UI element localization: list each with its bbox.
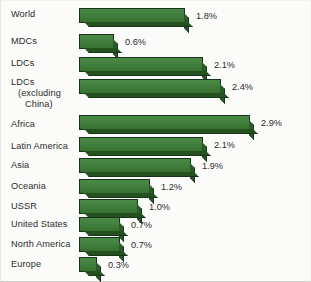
bar-container <box>79 257 97 272</box>
bar-container <box>79 8 185 23</box>
bar-container <box>79 179 150 194</box>
category-label: United States <box>11 219 67 230</box>
bar-container <box>79 79 221 94</box>
bar-container <box>79 34 114 49</box>
value-label: 1.0% <box>149 202 170 213</box>
category-label: North America <box>11 239 71 250</box>
bar <box>79 158 191 173</box>
category-label: LDCs <box>11 58 34 69</box>
bar-container <box>79 237 120 252</box>
bar-face <box>80 180 149 193</box>
bar-bottom-3d <box>84 93 229 98</box>
bar-bottom-3d <box>84 193 158 198</box>
bar-face <box>80 238 119 251</box>
value-label: 1.2% <box>161 182 182 193</box>
value-label: 1.9% <box>202 161 223 172</box>
value-label: 0.6% <box>125 37 146 48</box>
bar <box>79 34 114 49</box>
category-label-line: (excluding <box>11 88 61 99</box>
bar-face <box>80 80 220 93</box>
bar-container <box>79 57 203 72</box>
category-label: MDCs <box>11 36 37 47</box>
bar-face <box>80 218 119 231</box>
bar <box>79 217 120 232</box>
category-label: World <box>11 9 35 20</box>
bar-container <box>79 137 203 152</box>
bar-bottom-3d <box>84 48 122 53</box>
category-label-line: LDCs <box>11 77 61 88</box>
value-label: 2.4% <box>232 82 253 93</box>
bar <box>79 137 203 152</box>
category-label: LDCs(excludingChina) <box>11 77 61 110</box>
bar <box>79 257 97 272</box>
category-label: Oceania <box>11 181 46 192</box>
bar-container <box>79 158 191 173</box>
bar-face <box>80 58 202 71</box>
category-label: Europe <box>11 259 41 270</box>
bar-face <box>80 200 137 213</box>
bar-bottom-3d <box>84 172 199 177</box>
bar <box>79 199 138 214</box>
category-label: Asia <box>11 160 29 171</box>
bar-face <box>80 116 249 129</box>
category-label: USSR <box>11 201 37 212</box>
value-label: 1.8% <box>196 11 217 22</box>
bar-bottom-3d <box>84 22 193 27</box>
value-label: 0.7% <box>131 240 152 251</box>
bar-container <box>79 115 250 130</box>
bar <box>79 179 150 194</box>
category-label: Latin America <box>11 141 68 152</box>
bar-bottom-3d <box>84 271 105 276</box>
value-label: 0.7% <box>131 220 152 231</box>
value-label: 2.9% <box>261 118 282 129</box>
bar-face <box>80 258 96 271</box>
bar <box>79 57 203 72</box>
bar-container <box>79 199 138 214</box>
bar-bottom-3d <box>84 71 211 76</box>
bar-bottom-3d <box>84 231 128 236</box>
bar <box>79 8 185 23</box>
bar-face <box>80 35 113 48</box>
bar <box>79 79 221 94</box>
bar-face <box>80 9 184 22</box>
bar-bottom-3d <box>84 251 128 256</box>
bar <box>79 237 120 252</box>
value-label: 0.3% <box>108 260 129 271</box>
bar-bottom-3d <box>84 129 258 134</box>
bar <box>79 115 250 130</box>
bar-bottom-3d <box>84 151 211 156</box>
bar-chart: World1.8%MDCs0.6%LDCs2.1%LDCs(excludingC… <box>0 0 311 282</box>
category-label-line: China) <box>11 99 61 110</box>
bar-container <box>79 217 120 232</box>
bar-face <box>80 138 202 151</box>
value-label: 2.1% <box>214 140 235 151</box>
category-label: Africa <box>11 119 35 130</box>
bar-face <box>80 159 190 172</box>
value-label: 2.1% <box>214 60 235 71</box>
